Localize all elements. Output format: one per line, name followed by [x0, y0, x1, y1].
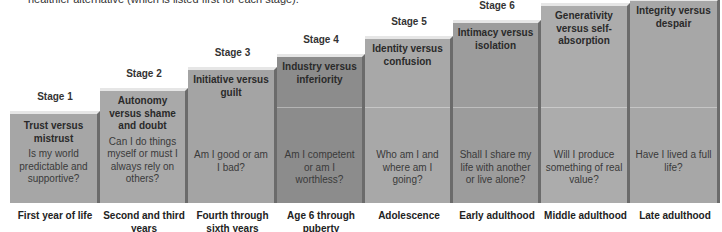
conflict-title: Intimacy versus isolation	[453, 27, 538, 52]
stage-box: Identity versus confusionWho am I and wh…	[365, 36, 453, 203]
stage-box: Generativity versus self-absorptionWill …	[541, 3, 630, 203]
age-label: Early adulthood	[453, 209, 541, 222]
age-label: Second and third years	[100, 209, 188, 232]
divider	[630, 107, 717, 108]
stage-question: Who am I and where am I going?	[365, 149, 450, 187]
stage-question: Can I do things myself or must I always …	[100, 136, 185, 186]
stage-label: Stage 5	[365, 16, 453, 27]
age-label: First year of life	[10, 209, 100, 222]
stage-question: Have I lived a full life?	[630, 149, 717, 174]
conflict-title: Generativity versus self-absorption	[541, 10, 627, 48]
stage-box: Integrity versus despairHave I lived a f…	[630, 0, 720, 203]
stage-question: Shall I share my life with another or li…	[453, 149, 538, 187]
stage-label: Stage 3	[188, 47, 277, 58]
age-label: Adolescence	[365, 209, 453, 222]
stage-box: Intimacy versus isolationShall I share m…	[453, 20, 541, 203]
conflict-title: Integrity versus despair	[630, 5, 717, 30]
divider	[277, 107, 362, 108]
divider	[541, 107, 627, 108]
stage-question: Will I produce something of real value?	[541, 149, 627, 187]
caption: healthier alternative (which is listed f…	[28, 0, 299, 5]
conflict-title: Identity versus confusion	[365, 43, 450, 68]
conflict-title: Initiative versus guilt	[188, 74, 274, 99]
stage-label: Stage 4	[277, 34, 365, 45]
stage-question: Am I good or am I bad?	[188, 149, 274, 174]
stage-box: Industry versus inferiorityAm I competen…	[277, 54, 365, 203]
stage-box: Initiative versus guiltAm I good or am I…	[188, 67, 277, 203]
divider	[365, 107, 450, 108]
divider	[453, 107, 538, 108]
stage-box: Trust versus mistrustIs my world predict…	[10, 111, 100, 203]
conflict-title: Autonomy versus shame and doubt	[100, 95, 185, 133]
age-label: Fourth through sixth years	[188, 209, 277, 232]
stage-question: Am I competent or am I worthless?	[277, 149, 362, 187]
conflict-title: Industry versus inferiority	[277, 61, 362, 86]
age-label: Age 6 through puberty	[277, 209, 365, 232]
age-label: Middle adulthood	[541, 209, 630, 222]
stage-label: Stage 1	[10, 91, 100, 102]
stage-label: Stage 6	[453, 0, 541, 11]
stage-box: Autonomy versus shame and doubtCan I do …	[100, 88, 188, 203]
stage-label: Stage 2	[100, 68, 188, 79]
age-label: Late adulthood	[630, 209, 720, 222]
stage-question: Is my world predictable and supportive?	[10, 148, 97, 186]
conflict-title: Trust versus mistrust	[10, 120, 97, 145]
